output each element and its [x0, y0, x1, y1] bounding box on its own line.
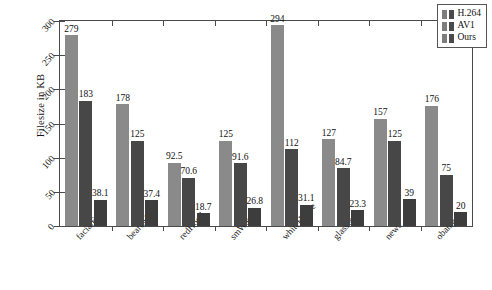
bar: 70.6 — [182, 178, 195, 226]
bar-value-label: 125 — [388, 130, 402, 140]
bar-value-label: 20 — [456, 202, 466, 212]
bar-value-label: 125 — [130, 130, 144, 140]
bar-value-label: 75 — [442, 164, 452, 174]
bar: 125 — [219, 141, 232, 226]
bar: 20 — [454, 212, 467, 226]
x-axis-tick-top — [112, 21, 113, 26]
bar: 279 — [65, 35, 78, 226]
x-axis-tick-top — [318, 21, 319, 26]
bar-value-label: 38.1 — [92, 189, 109, 199]
bar: 127 — [322, 139, 335, 226]
bar: 26.8 — [248, 208, 261, 226]
bar-value-label: 112 — [285, 139, 299, 149]
bar-value-label: 39 — [405, 189, 415, 199]
x-axis-tick — [215, 226, 216, 231]
bar-value-label: 127 — [322, 129, 336, 139]
bar-value-label: 183 — [79, 90, 93, 100]
bar-value-label: 157 — [373, 108, 387, 118]
bar-chart-figure: Filesize in KB 050100150200250300 facial… — [0, 0, 492, 290]
bar-value-label: 92.5 — [166, 152, 183, 162]
bar: 91.6 — [234, 163, 247, 226]
legend: H.264AV1Ours — [437, 4, 488, 48]
bar-value-label: 37.4 — [143, 190, 160, 200]
x-axis-tick — [318, 226, 319, 231]
x-axis-tick-top — [163, 21, 164, 26]
bar: 18.7 — [197, 213, 210, 226]
bar: 157 — [374, 119, 387, 226]
x-axis-tick — [266, 226, 267, 231]
bar-value-label: 18.7 — [195, 203, 212, 213]
bar-value-label: 23.3 — [349, 200, 366, 210]
bar: 183 — [79, 101, 92, 226]
plot-area: 050100150200250300 facialExpbeardManredH… — [59, 20, 473, 227]
bar: 84.7 — [337, 168, 350, 226]
bar: 176 — [425, 106, 438, 226]
y-axis-tick-label: 0 — [46, 222, 57, 232]
bar-value-label: 294 — [270, 15, 284, 25]
bar: 125 — [388, 141, 401, 226]
legend-label: Ours — [458, 33, 476, 43]
x-axis-tick — [112, 226, 113, 231]
legend-swatch — [442, 34, 454, 43]
bar: 23.3 — [351, 210, 364, 226]
legend-item: AV1 — [442, 20, 482, 32]
bar-value-label: 84.7 — [335, 158, 352, 168]
y-axis-tick-inner — [60, 226, 65, 227]
bar: 294 — [271, 25, 284, 226]
x-axis-tick-top — [421, 21, 422, 26]
bar-value-label: 279 — [64, 25, 78, 35]
bar-value-label: 178 — [116, 94, 130, 104]
bar-value-label: 176 — [425, 95, 439, 105]
legend-label: H.264 — [458, 9, 482, 19]
legend-swatch — [442, 10, 454, 19]
y-axis-tick-label: 50 — [43, 187, 57, 201]
bar: 39 — [403, 199, 416, 226]
bar-value-label: 26.8 — [246, 197, 263, 207]
bar: 112 — [285, 149, 298, 226]
bar-value-label: 125 — [219, 130, 233, 140]
y-axis-tick-inner — [60, 21, 65, 22]
bar-value-label: 70.6 — [180, 167, 197, 177]
bar: 92.5 — [168, 163, 181, 226]
bar: 37.4 — [145, 200, 158, 226]
bar: 125 — [131, 141, 144, 226]
legend-label: AV1 — [458, 21, 475, 31]
legend-item: H.264 — [442, 8, 482, 20]
bar: 178 — [116, 104, 129, 226]
x-axis-tick — [421, 226, 422, 231]
bar-value-label: 91.6 — [232, 153, 249, 163]
x-axis-tick — [369, 226, 370, 231]
bar-value-label: 31.1 — [298, 194, 315, 204]
legend-swatch — [442, 22, 454, 31]
x-axis-tick-top — [215, 21, 216, 26]
x-axis-tick-top — [369, 21, 370, 26]
bar: 31.1 — [300, 205, 313, 226]
bar: 38.1 — [94, 200, 107, 226]
x-axis-tick — [163, 226, 164, 231]
bar: 75 — [440, 175, 453, 226]
legend-item: Ours — [442, 32, 482, 44]
x-axis-tick-top — [266, 21, 267, 26]
